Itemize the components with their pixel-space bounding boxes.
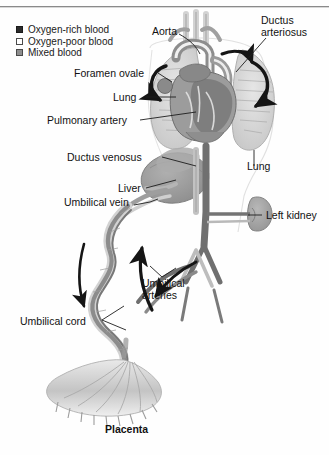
legend-swatch-oxygen-rich [16,26,23,33]
legend-item-oxygen-rich: Oxygen-rich blood [16,24,113,36]
label-umbilical-arteries-line2: arteries [142,289,185,301]
label-placenta: Placenta [105,424,148,436]
lung-right-shape [232,50,274,150]
label-ductus-arteriosus-line2: arteriosus [261,26,307,38]
label-liver: Liver [118,183,141,195]
label-left-kidney: Left kidney [266,210,317,222]
legend: Oxygen-rich blood Oxygen-poor blood Mixe… [16,24,113,59]
label-umbilical-arteries-line1: Umbilical [142,277,185,289]
legend-swatch-oxygen-poor [16,38,23,45]
label-lung-left: Lung [113,92,136,104]
label-pulmonary-artery: Pulmonary artery [47,115,127,127]
label-aorta: Aorta [152,26,177,38]
fetal-circulation-figure: Oxygen-rich blood Oxygen-poor blood Mixe… [0,0,329,455]
legend-item-mixed: Mixed blood [16,47,113,59]
legend-label-mixed-blood: Mixed blood [28,47,82,59]
placenta-shape [47,340,162,426]
label-ductus-arteriosus: Ductus arteriosus [261,14,307,38]
label-umbilical-arteries: Umbilical arteries [142,277,185,301]
legend-item-oxygen-poor: Oxygen-poor blood [16,36,113,48]
label-umbilical-cord: Umbilical cord [20,316,86,328]
anatomy-artwork [0,0,329,455]
label-ductus-venosus: Ductus venosus [67,152,142,164]
legend-swatch-mixed-blood [16,49,23,56]
legend-label-oxygen-poor: Oxygen-poor blood [28,36,113,48]
arrow-cord-down [80,244,85,306]
label-foramen-ovale: Foramen ovale [74,68,144,80]
label-lung-right: Lung [247,161,270,173]
label-ductus-arteriosus-line1: Ductus [261,14,307,26]
label-umbilical-vein: Umbilical vein [64,197,129,209]
legend-label-oxygen-rich: Oxygen-rich blood [28,24,109,36]
